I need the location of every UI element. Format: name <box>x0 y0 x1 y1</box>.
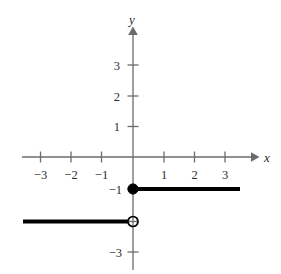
x-tick-label--1: −1 <box>95 168 108 182</box>
y-tick-labels: 3 2 1 −1 −3 <box>109 59 122 260</box>
x-tick-label-2: 2 <box>191 168 197 182</box>
graph-canvas: −3 −2 −1 1 2 3 3 2 1 −1 −3 x y <box>0 0 281 274</box>
y-tick-label-1: 1 <box>114 120 120 134</box>
y-tick-label-2: 2 <box>114 90 120 104</box>
x-axis-label: x <box>263 150 270 165</box>
y-axis-label: y <box>127 12 135 27</box>
x-tick-label-1: 1 <box>161 168 167 182</box>
y-tick-label--3: −3 <box>109 246 122 260</box>
x-tick-label--3: −3 <box>34 168 47 182</box>
x-axis-arrow-icon <box>251 152 260 162</box>
y-tick-label--1: −1 <box>109 183 122 197</box>
y-tick-label-3: 3 <box>114 59 120 73</box>
x-tick-labels: −3 −2 −1 1 2 3 <box>34 168 228 182</box>
x-tick-label--2: −2 <box>64 168 77 182</box>
axes-group <box>22 27 260 271</box>
figure-root: −3 −2 −1 1 2 3 3 2 1 −1 −3 x y <box>0 0 281 274</box>
x-tick-label-3: 3 <box>222 168 228 182</box>
y-axis-arrow-icon <box>128 27 138 36</box>
closed-point-marker <box>128 184 138 194</box>
